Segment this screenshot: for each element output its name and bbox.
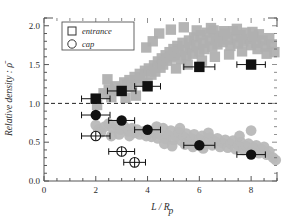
scatter-plot: 024680.00.51.01.52.0L / RpRelative densi… xyxy=(0,0,290,216)
figure-container: 024680.00.51.01.52.0L / RpRelative densi… xyxy=(0,0,290,216)
x-tick-label-3: 6 xyxy=(197,185,202,195)
cap-marker xyxy=(194,140,204,150)
cap-marker xyxy=(91,110,101,120)
cloud-point xyxy=(179,22,189,32)
y-axis-title: Relative density : ρ̄ xyxy=(4,60,14,137)
cloud-point xyxy=(219,26,229,36)
cloud-point xyxy=(175,123,186,134)
entrance-marker xyxy=(246,59,256,69)
cloud-point xyxy=(224,49,234,59)
cloud-point xyxy=(232,24,242,34)
cloud-point xyxy=(210,52,220,62)
cloud-point xyxy=(206,23,216,33)
cap-marker xyxy=(116,115,126,125)
entrance-marker xyxy=(116,86,126,96)
entrance-marker xyxy=(142,81,152,91)
cloud-point xyxy=(203,127,214,138)
y-tick-label-2: 1.0 xyxy=(29,99,41,109)
y-tick-label-0: 0.0 xyxy=(29,176,41,186)
x-tick-label-1: 2 xyxy=(94,185,99,195)
x-tick-label-2: 4 xyxy=(145,185,150,195)
y-tick-label-1: 0.5 xyxy=(29,137,41,147)
legend-label-entrance: entrance xyxy=(82,26,112,36)
x-axis-subscript-p: p xyxy=(168,206,174,216)
cloud-point xyxy=(148,36,158,46)
cloud-point xyxy=(102,74,112,84)
cloud-point xyxy=(237,46,247,56)
cloud-point xyxy=(247,27,257,37)
cloud-point xyxy=(167,141,178,152)
cloud-point xyxy=(192,25,202,35)
cloud-point xyxy=(171,63,181,73)
entrance-marker xyxy=(91,94,101,104)
entrance-marker xyxy=(194,62,204,72)
cap-marker xyxy=(142,125,152,135)
cloud-point xyxy=(252,44,262,54)
cloud-point xyxy=(166,24,176,34)
cloud-point xyxy=(180,139,191,150)
cloud-point xyxy=(261,49,271,59)
cloud-point xyxy=(234,131,245,142)
cloud-point xyxy=(270,155,281,166)
cloud-point xyxy=(124,131,135,142)
x-tick-label-4: 8 xyxy=(249,185,254,195)
x-tick-label-0: 0 xyxy=(42,185,47,195)
x-axis-title: L / R xyxy=(150,202,170,212)
legend-label-cap: cap xyxy=(82,39,94,49)
y-tick-label-3: 1.5 xyxy=(29,60,41,70)
cloud-point xyxy=(246,125,257,136)
y-tick-label-4: 2.0 xyxy=(29,21,41,31)
cap-marker xyxy=(246,149,256,159)
